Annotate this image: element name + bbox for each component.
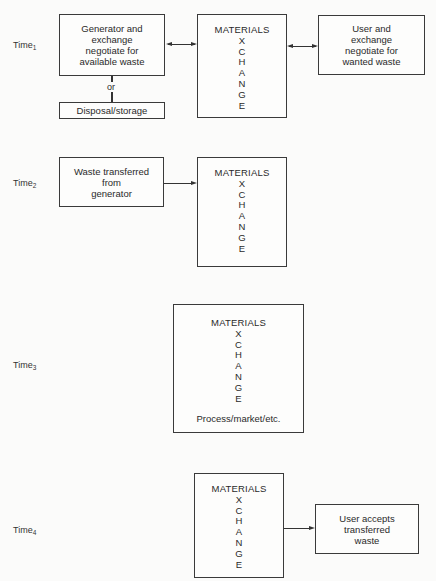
exchange-letter: G [174, 383, 303, 394]
process-market-note: Process/market/etc. [174, 414, 303, 425]
exchange-letter: E [198, 244, 286, 255]
exchange-letter: E [195, 560, 283, 571]
or-label: or [106, 82, 116, 92]
box-text-line: User and [352, 23, 391, 34]
time-label-3: Time3 [13, 360, 36, 371]
materials-exchange-box-1: MATERIALS X C H A N G E [197, 14, 287, 118]
box-text-line: transferred [344, 524, 390, 535]
disposal-storage-box: Disposal/storage [59, 102, 165, 119]
box-text-line: Generator and [81, 23, 142, 34]
box-text-line: wanted waste [342, 56, 400, 67]
box-text-line: from [102, 177, 121, 188]
materials-exchange-box-2: MATERIALS X C H A N G E [197, 157, 287, 267]
box-text-line: negotiate for [345, 45, 398, 56]
exchange-letter: X [174, 329, 303, 340]
box-text-line: waste [355, 535, 380, 546]
time-label-4: Time4 [13, 525, 36, 536]
exchange-letter: X [198, 179, 286, 190]
box-text-line: exchange [351, 34, 392, 45]
exchange-letter: X [195, 495, 283, 506]
waste-transferred-box: Waste transferred from generator [59, 157, 164, 207]
generator-negotiate-box: Generator and exchange negotiate for ava… [59, 14, 165, 76]
box-text-line: available waste [80, 56, 145, 67]
materials-exchange-box-4: MATERIALS X C H A N G E [194, 473, 284, 578]
box-text-line: negotiate for [86, 45, 139, 56]
box-text-line: exchange [91, 34, 132, 45]
box-text-line: User accepts [339, 513, 394, 524]
exchange-letter: G [198, 90, 286, 101]
box-text-line: Waste transferred [74, 166, 149, 177]
arrow-to-user [284, 528, 311, 529]
box-text-line: Disposal/storage [77, 105, 148, 116]
exchange-letter: G [198, 233, 286, 244]
user-negotiate-box: User and exchange negotiate for wanted w… [318, 15, 425, 75]
box-text-line: generator [91, 188, 132, 199]
exchange-letter: E [198, 101, 286, 112]
exchange-letter: E [174, 394, 303, 405]
exchange-letter: X [198, 36, 286, 47]
arrowhead-left-icon [166, 42, 172, 46]
user-accepts-box: User accepts transferred waste [315, 504, 419, 554]
time-label-1: Time1 [13, 40, 36, 51]
arrow-to-exchange [164, 183, 192, 184]
materials-exchange-box-3: MATERIALS X C H A N G E Process/market/e… [173, 304, 304, 433]
time-label-2: Time2 [13, 178, 36, 189]
exchange-letter: G [195, 549, 283, 560]
arrowhead-left-icon [287, 44, 293, 48]
